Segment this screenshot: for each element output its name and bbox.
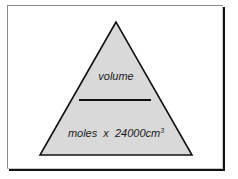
cubed-superscript: 3: [160, 127, 164, 134]
moles-times-molar-volume-label: moles x 24000cm3: [56, 127, 176, 139]
volume-label: volume: [86, 70, 146, 82]
moles-formula-text: moles x 24000cm: [68, 127, 160, 139]
formula-triangle: [0, 0, 238, 179]
